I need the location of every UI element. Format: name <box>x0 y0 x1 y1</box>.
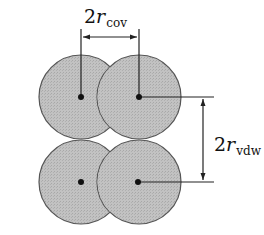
nucleus-dot <box>78 94 84 100</box>
vdw-arrow-up-icon <box>201 99 206 106</box>
diagram-canvas: 2rcov 2rvdw <box>0 0 264 235</box>
vdw-label: 2rvdw <box>214 135 261 157</box>
cov-arrow-left-icon <box>83 35 90 40</box>
vdw-arrow-down-icon <box>201 173 206 180</box>
vdw-subscript: vdw <box>236 144 261 158</box>
nucleus-dot <box>135 179 141 185</box>
cov-symbol: r <box>96 5 105 27</box>
covalent-label: 2rcov <box>84 7 127 29</box>
cov-subscript: cov <box>106 16 127 30</box>
cov-coefficient: 2 <box>84 5 96 27</box>
vdw-coefficient: 2 <box>214 133 226 155</box>
diagram-svg <box>0 0 264 235</box>
nucleus-dot <box>78 179 84 185</box>
vdw-symbol: r <box>226 133 235 155</box>
cov-arrow-right-icon <box>130 35 137 40</box>
nucleus-dot <box>136 94 142 100</box>
